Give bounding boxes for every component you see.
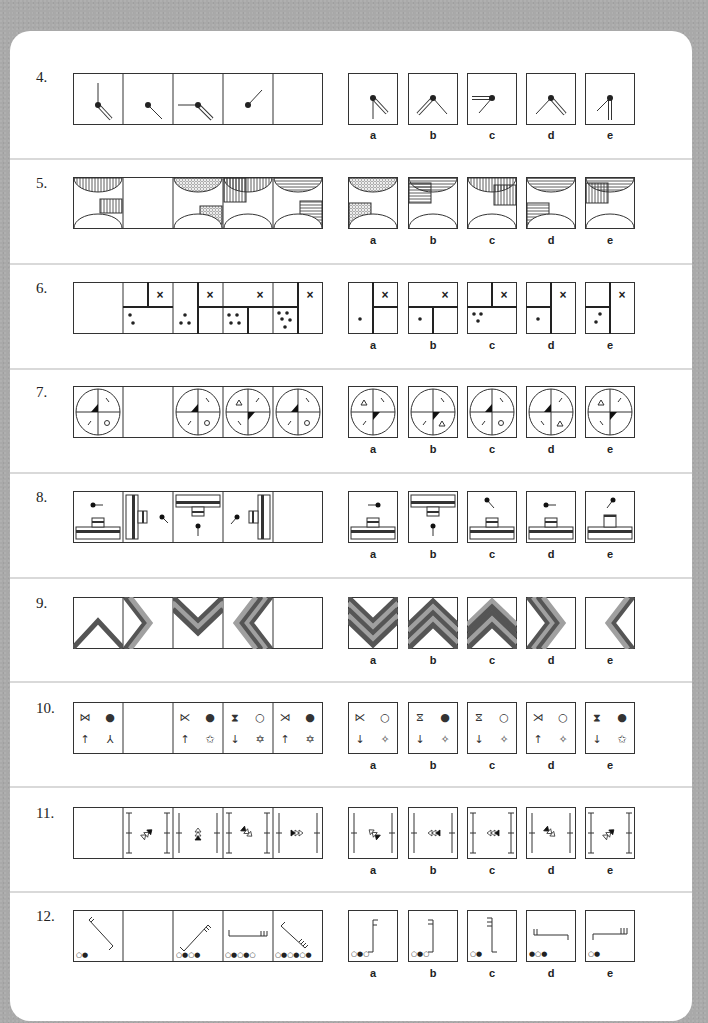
svg-text:↓: ↓ bbox=[592, 733, 601, 746]
option-c[interactable] bbox=[467, 807, 517, 859]
option-label-b: b bbox=[423, 759, 443, 771]
option-label-e: e bbox=[600, 234, 620, 246]
option-label-c: c bbox=[482, 967, 502, 979]
svg-text:↑: ↑ bbox=[280, 733, 289, 746]
option-label-c: c bbox=[482, 548, 502, 560]
option-d[interactable] bbox=[526, 491, 576, 543]
option-d[interactable] bbox=[526, 807, 576, 859]
option-e[interactable] bbox=[585, 597, 635, 649]
option-label-d: d bbox=[541, 129, 561, 141]
option-e[interactable] bbox=[585, 73, 635, 125]
option-b[interactable] bbox=[408, 807, 458, 859]
option-e[interactable]: × bbox=[585, 282, 635, 334]
option-label-c: c bbox=[482, 864, 502, 876]
option-label-e: e bbox=[600, 339, 620, 351]
option-label-a: a bbox=[363, 234, 383, 246]
question-number: 10. bbox=[36, 700, 55, 717]
option-c[interactable] bbox=[467, 177, 517, 229]
option-b[interactable] bbox=[408, 177, 458, 229]
option-d[interactable]: ⋊○ ↑✧ bbox=[526, 702, 576, 754]
option-label-e: e bbox=[600, 864, 620, 876]
svg-text:×: × bbox=[256, 288, 263, 302]
svg-text:×: × bbox=[156, 288, 163, 302]
option-d[interactable] bbox=[526, 177, 576, 229]
svg-text:✧: ✧ bbox=[380, 733, 389, 746]
svg-text:●: ● bbox=[205, 711, 215, 724]
question-8: 8. bbox=[10, 474, 692, 579]
option-d[interactable]: ●○● bbox=[526, 910, 576, 962]
svg-text:✧: ✧ bbox=[440, 733, 449, 746]
option-label-b: b bbox=[423, 654, 443, 666]
sequence-strip bbox=[73, 73, 323, 125]
option-label-e: e bbox=[600, 654, 620, 666]
option-d[interactable] bbox=[526, 386, 576, 438]
option-label-d: d bbox=[541, 339, 561, 351]
svg-text:×: × bbox=[441, 288, 448, 302]
question-9: 9. bbox=[10, 578, 692, 683]
svg-text:✧: ✧ bbox=[499, 733, 508, 746]
option-label-b: b bbox=[423, 443, 443, 455]
option-b[interactable]: × bbox=[408, 282, 458, 334]
option-c[interactable]: ○● bbox=[467, 910, 517, 962]
option-a[interactable]: × bbox=[348, 282, 398, 334]
option-c[interactable] bbox=[467, 386, 517, 438]
sequence-strip bbox=[73, 177, 323, 229]
option-d[interactable] bbox=[526, 597, 576, 649]
svg-text:×: × bbox=[381, 288, 388, 302]
question-number: 6. bbox=[36, 280, 47, 297]
option-a[interactable] bbox=[348, 491, 398, 543]
option-b[interactable] bbox=[408, 386, 458, 438]
option-e[interactable]: ○● bbox=[585, 910, 635, 962]
svg-text:↑: ↑ bbox=[80, 733, 89, 746]
option-a[interactable] bbox=[348, 73, 398, 125]
option-e[interactable] bbox=[585, 386, 635, 438]
option-e[interactable] bbox=[585, 491, 635, 543]
option-d[interactable] bbox=[526, 73, 576, 125]
option-b[interactable]: ⧖● ↓✧ bbox=[408, 702, 458, 754]
option-a[interactable] bbox=[348, 807, 398, 859]
option-a[interactable] bbox=[348, 597, 398, 649]
svg-text:●: ● bbox=[105, 711, 115, 724]
question-number: 5. bbox=[36, 175, 47, 192]
question-number: 11. bbox=[36, 805, 54, 822]
option-c[interactable]: × bbox=[467, 282, 517, 334]
option-e[interactable]: ⧗● ↓✩ bbox=[585, 702, 635, 754]
option-label-e: e bbox=[600, 443, 620, 455]
option-b[interactable] bbox=[408, 73, 458, 125]
option-a[interactable] bbox=[348, 177, 398, 229]
option-label-d: d bbox=[541, 443, 561, 455]
option-e[interactable] bbox=[585, 807, 635, 859]
question-6: 6. ×××× bbox=[10, 265, 692, 370]
svg-text:⧗: ⧗ bbox=[231, 711, 239, 724]
question-12: 12. ○● ○●○● ○●○●○ bbox=[10, 893, 692, 1023]
svg-text:○: ○ bbox=[380, 711, 390, 724]
option-c[interactable] bbox=[467, 597, 517, 649]
svg-text:×: × bbox=[559, 288, 566, 302]
option-b[interactable]: ○●○ bbox=[408, 910, 458, 962]
option-b[interactable] bbox=[408, 491, 458, 543]
option-e[interactable] bbox=[585, 177, 635, 229]
svg-text:↓: ↓ bbox=[474, 733, 483, 746]
svg-text:↓: ↓ bbox=[355, 733, 364, 746]
svg-text:⧖: ⧖ bbox=[475, 711, 483, 724]
option-label-d: d bbox=[541, 864, 561, 876]
svg-text:⋊: ⋊ bbox=[280, 711, 291, 724]
option-label-a: a bbox=[363, 654, 383, 666]
option-label-a: a bbox=[363, 443, 383, 455]
option-a[interactable]: ○●○ bbox=[348, 910, 398, 962]
option-label-b: b bbox=[423, 129, 443, 141]
option-label-c: c bbox=[482, 759, 502, 771]
svg-text:⧗: ⧗ bbox=[593, 711, 601, 724]
option-label-d: d bbox=[541, 967, 561, 979]
option-c[interactable] bbox=[467, 73, 517, 125]
option-a[interactable] bbox=[348, 386, 398, 438]
option-d[interactable]: × bbox=[526, 282, 576, 334]
option-c[interactable] bbox=[467, 491, 517, 543]
sequence-strip bbox=[73, 597, 323, 649]
option-label-b: b bbox=[423, 548, 443, 560]
svg-text:○: ○ bbox=[558, 711, 568, 724]
option-b[interactable] bbox=[408, 597, 458, 649]
svg-text:○●: ○● bbox=[588, 950, 600, 958]
option-c[interactable]: ⧖○ ↓✧ bbox=[467, 702, 517, 754]
option-a[interactable]: ⋉○ ↓✧ bbox=[348, 702, 398, 754]
